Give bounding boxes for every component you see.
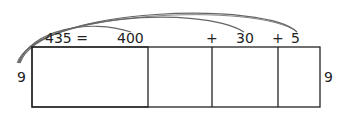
left-side-label: 9 bbox=[17, 70, 26, 84]
plus-sign-1: + bbox=[206, 31, 218, 45]
area-model-diagram bbox=[0, 0, 343, 115]
total-label: 435 = bbox=[45, 31, 88, 45]
right-side-label: 9 bbox=[324, 70, 333, 84]
ones-label: 5 bbox=[291, 31, 300, 45]
plus-sign-2: + bbox=[272, 31, 284, 45]
tens-label: 30 bbox=[236, 31, 254, 45]
area-rectangle bbox=[32, 47, 320, 107]
hundreds-label: 400 bbox=[117, 31, 144, 45]
